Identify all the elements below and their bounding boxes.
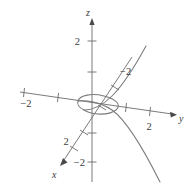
plot-figure: z y x 2 −2 2 −2 2 −2 (0, 0, 194, 190)
y-tick-label-positive-2: 2 (146, 121, 151, 132)
x-axis-arrow-icon (60, 158, 68, 166)
y-axis-arrow-icon (170, 112, 177, 118)
z-axis (88, 18, 97, 182)
y-axis-label: y (178, 113, 184, 124)
z-tick-label-positive-2: 2 (75, 36, 80, 47)
z-axis-label: z (85, 7, 90, 18)
axis-labels-group: z y x (51, 7, 184, 180)
y-tick-label-negative-2: −2 (20, 98, 31, 109)
z-tick-label-negative-2: −2 (74, 157, 85, 168)
y-axis-tick-positive-1 (126, 103, 127, 112)
x-tick-label-positive-2: 2 (63, 136, 68, 147)
space-curve-loop (78, 95, 119, 115)
plot-canvas: z y x 2 −2 2 −2 2 −2 (0, 0, 194, 190)
z-axis-arrow-icon (89, 18, 94, 25)
y-axis (20, 88, 177, 118)
y-axis-tick-positive-2 (150, 107, 151, 116)
x-tick-label-negative-2: −2 (120, 66, 131, 77)
x-axis-label: x (51, 169, 57, 180)
y-axis-tick-negative-1 (58, 93, 59, 102)
y-axis-tick-negative-2 (24, 88, 25, 97)
